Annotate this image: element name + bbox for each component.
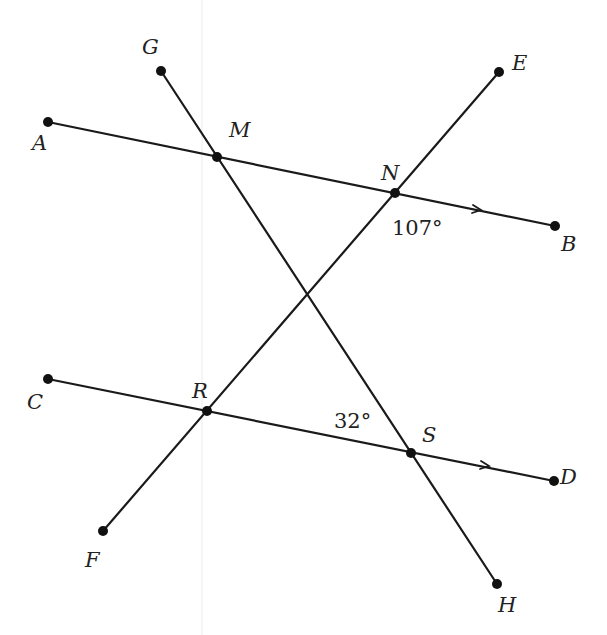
- label-r: R: [191, 379, 208, 403]
- segment-ef: [103, 72, 499, 531]
- point-m: [212, 152, 222, 162]
- point-d: [549, 476, 559, 486]
- label-s: S: [422, 423, 436, 447]
- label-h: H: [497, 593, 517, 617]
- point-f: [98, 526, 108, 536]
- label-d: D: [559, 465, 577, 489]
- segment-cd: [48, 379, 554, 481]
- segment-gh: [161, 71, 497, 584]
- angle-label-s: 32°: [334, 409, 371, 433]
- label-g: G: [142, 35, 159, 59]
- label-a: A: [30, 131, 47, 155]
- point-g: [156, 66, 166, 76]
- point-e: [494, 67, 504, 77]
- label-c: C: [27, 390, 43, 414]
- point-b: [550, 221, 560, 231]
- point-c: [43, 374, 53, 384]
- geometry-diagram: A B C D E F G H M N R S 107° 32°: [0, 0, 607, 635]
- label-n: N: [380, 161, 400, 185]
- label-e: E: [511, 51, 527, 75]
- point-a: [43, 117, 53, 127]
- point-h: [492, 579, 502, 589]
- point-n: [390, 188, 400, 198]
- label-b: B: [560, 232, 576, 256]
- label-m: M: [228, 118, 251, 142]
- label-f: F: [84, 548, 101, 572]
- point-r: [202, 406, 212, 416]
- point-s: [406, 448, 416, 458]
- angle-label-n: 107°: [392, 216, 443, 240]
